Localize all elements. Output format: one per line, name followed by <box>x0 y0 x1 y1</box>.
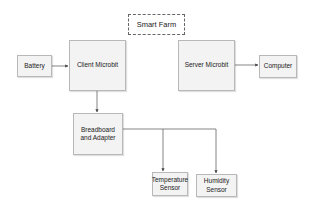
edge-breadboard-temperature <box>123 129 163 171</box>
node-label: Breadboard and Adapter <box>77 126 119 142</box>
edge-breadboard-humidity <box>163 129 216 173</box>
node-label: Humidity Sensor <box>203 177 230 193</box>
node-battery: Battery <box>17 55 52 77</box>
node-humidity-sensor: Humidity Sensor <box>196 174 237 197</box>
title-label: Smart Farm <box>137 20 177 29</box>
node-label: Temperature Sensor <box>152 176 189 192</box>
node-label: Computer <box>264 62 293 70</box>
diagram-title-smart-farm: Smart Farm <box>128 14 185 35</box>
node-label: Server Microbit <box>185 61 229 69</box>
node-label: Client Microbit <box>77 61 118 69</box>
node-client-microbit: Client Microbit <box>69 40 126 91</box>
node-computer: Computer <box>259 55 297 78</box>
node-server-microbit: Server Microbit <box>178 40 235 91</box>
node-label: Battery <box>24 62 45 70</box>
node-breadboard-adapter: Breadboard and Adapter <box>73 113 123 155</box>
node-temperature-sensor: Temperature Sensor <box>152 172 188 196</box>
